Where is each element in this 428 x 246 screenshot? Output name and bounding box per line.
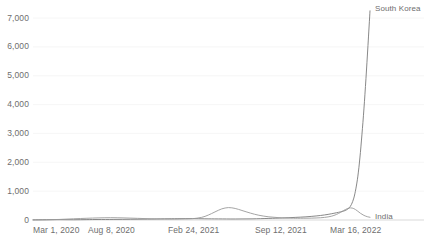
gridlines <box>33 18 424 191</box>
chart-container: 01,0002,0003,0004,0005,0006,0007,000 Mar… <box>0 0 428 246</box>
y-tick-label: 5,000 <box>0 71 29 80</box>
series-label-south-korea: South Korea <box>375 4 421 13</box>
y-tick-label: 1,000 <box>0 187 29 196</box>
series-line-south-korea <box>33 11 370 220</box>
series-label-india: India <box>375 212 393 221</box>
x-tick-label: Sep 12, 2021 <box>255 226 307 235</box>
y-tick-label: 4,000 <box>0 100 29 109</box>
x-tick-label: Mar 16, 2022 <box>330 226 381 235</box>
y-tick-label: 3,000 <box>0 129 29 138</box>
y-tick-label: 2,000 <box>0 158 29 167</box>
x-tick-label: Mar 1, 2020 <box>33 226 79 235</box>
x-tick-label: Aug 8, 2020 <box>88 226 135 235</box>
series-lines <box>33 11 370 220</box>
series-line-india <box>33 208 370 220</box>
y-tick-label: 0 <box>0 216 29 225</box>
x-tick-label: Feb 24, 2021 <box>168 226 219 235</box>
y-tick-label: 7,000 <box>0 14 29 23</box>
line-chart-plot <box>0 0 428 246</box>
y-tick-label: 6,000 <box>0 42 29 51</box>
